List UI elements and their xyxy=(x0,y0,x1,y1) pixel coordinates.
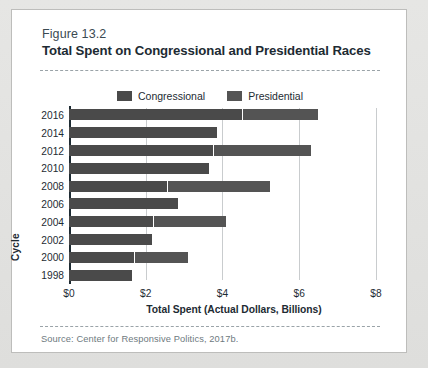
x-axis-tick-label: $2 xyxy=(140,288,151,299)
y-axis-title: Cycle xyxy=(10,233,21,261)
legend-swatch-congressional xyxy=(117,91,132,101)
y-axis-tick-label: 2000 xyxy=(41,252,64,263)
legend-item-presidential: Presidential xyxy=(227,90,303,102)
bar-row xyxy=(69,198,178,209)
divider-top xyxy=(40,70,380,71)
y-axis-tick-label: 2008 xyxy=(41,181,64,192)
divider-bottom xyxy=(40,326,380,327)
bar-segment-congressional xyxy=(69,181,167,192)
bar-row xyxy=(69,181,270,192)
x-axis-tick-label: $6 xyxy=(294,288,305,299)
source-note: Source: Center for Responsive Politics, … xyxy=(41,334,238,344)
x-axis-tick-label: $8 xyxy=(370,288,381,299)
y-axis-tick-label: 2010 xyxy=(41,163,64,174)
x-axis-title: Total Spent (Actual Dollars, Billions) xyxy=(69,304,399,315)
x-axis-tick-label: $4 xyxy=(217,288,228,299)
legend-swatch-presidential xyxy=(227,91,242,101)
bar-segment-presidential xyxy=(167,181,271,192)
y-axis-tick-label: 2006 xyxy=(41,198,64,209)
bar-segment-congressional xyxy=(69,163,209,174)
page-background: Figure 13.2 Total Spent on Congressional… xyxy=(0,0,428,368)
y-axis-tick-label: 2014 xyxy=(41,127,64,138)
bar-row xyxy=(69,127,217,138)
figure-title: Total Spent on Congressional and Preside… xyxy=(42,43,371,58)
bar-segment-presidential xyxy=(134,252,188,263)
legend-label-presidential: Presidential xyxy=(248,90,303,102)
x-axis-tick-label: $0 xyxy=(63,288,74,299)
gridline-4 xyxy=(222,108,223,280)
chart-legend: Congressional Presidential xyxy=(12,90,408,102)
bar-row xyxy=(69,252,188,263)
bar-segment-congressional xyxy=(69,234,152,245)
bar-row xyxy=(69,216,226,227)
figure-card: Figure 13.2 Total Spent on Congressional… xyxy=(11,9,407,353)
legend-item-congressional: Congressional xyxy=(117,90,205,102)
legend-label-congressional: Congressional xyxy=(138,90,205,102)
bar-row xyxy=(69,109,318,120)
bar-segment-congressional xyxy=(69,127,217,138)
bar-segment-congressional xyxy=(69,270,132,281)
bar-segment-congressional xyxy=(69,145,213,156)
bar-segment-congressional xyxy=(69,198,178,209)
bar-row xyxy=(69,145,311,156)
figure-number: Figure 13.2 xyxy=(42,27,106,41)
y-axis-tick-label: 2016 xyxy=(41,109,64,120)
bar-segment-presidential xyxy=(153,216,226,227)
y-axis-tick-label: 2002 xyxy=(41,234,64,245)
bar-segment-congressional xyxy=(69,216,153,227)
bar-row xyxy=(69,270,132,281)
y-axis-tick-label: 2012 xyxy=(41,145,64,156)
plot-area: $0$2$4$6$8201620142012201020082006200420… xyxy=(69,106,399,321)
bar-segment-congressional xyxy=(69,252,134,263)
gridline-8 xyxy=(376,108,377,280)
y-axis-tick-label: 1998 xyxy=(41,270,64,281)
bar-row xyxy=(69,163,209,174)
bar-segment-presidential xyxy=(213,145,311,156)
gridline-6 xyxy=(299,108,300,280)
y-axis-tick-label: 2004 xyxy=(41,216,64,227)
bar-row xyxy=(69,234,152,245)
bar-segment-presidential xyxy=(242,109,319,120)
chart-plot: Cycle $0$2$4$6$8201620142012201020082006… xyxy=(12,106,408,321)
bar-segment-congressional xyxy=(69,109,242,120)
